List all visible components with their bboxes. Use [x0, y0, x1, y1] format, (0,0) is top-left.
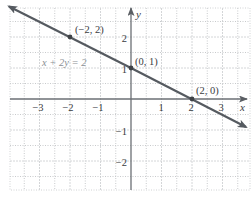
x-tick-label: 1: [158, 102, 163, 113]
x-tick-label: −3: [32, 102, 43, 113]
y-tick-labels: 2 1 −1 −2: [116, 33, 127, 168]
coordinate-plane: x y −3 −2 −1 1 2 3 2 1 −1 −2 (−2, 2) (0,…: [0, 0, 252, 197]
y-tick-label: 2: [122, 33, 127, 44]
x-tick-label: 3: [218, 102, 223, 113]
y-axis-label: y: [135, 8, 141, 20]
point-marker: [68, 35, 73, 40]
point-label: (2, 0): [196, 85, 219, 97]
equation-label: x + 2y = 2: [41, 57, 87, 68]
point-label: (−2, 2): [75, 24, 104, 36]
x-tick-label: −2: [62, 102, 73, 113]
y-tick-label: −1: [116, 126, 127, 137]
y-tick-label: −2: [116, 157, 127, 168]
graph-line: [131, 68, 246, 127]
x-tick-label: −1: [92, 102, 103, 113]
point-marker: [190, 97, 195, 102]
x-tick-label: 2: [188, 102, 193, 113]
point-label: (0, 1): [135, 56, 158, 68]
x-axis-label: x: [239, 101, 245, 113]
point-marker: [129, 66, 134, 71]
x-tick-labels: −3 −2 −1 1 2 3: [32, 102, 223, 113]
